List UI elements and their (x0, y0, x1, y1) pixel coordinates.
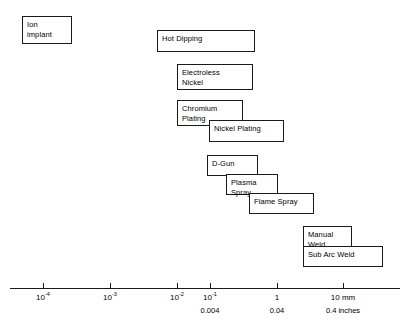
axis-inch-label: 0.4 inches (326, 306, 360, 315)
process-box: Hot Dipping (157, 30, 255, 52)
axis-inch-label: 0.004 (201, 306, 220, 315)
tick-exponent: -2 (179, 291, 184, 297)
process-box: Nickel Plating (209, 120, 284, 142)
tick-mantissa: 10 (103, 293, 112, 302)
axis-tick-label: 10-4 (36, 293, 50, 302)
process-box: Plasma Spray (226, 174, 278, 195)
axis-tick (210, 283, 211, 288)
axis-line (10, 288, 400, 289)
process-box: D-Gun (207, 155, 258, 176)
axis-inch-label: 0.04 (270, 306, 285, 315)
tick-mantissa: 1 (275, 293, 279, 302)
process-box: Ion implant (22, 16, 72, 44)
axis-tick-label: 10 mm (331, 293, 355, 302)
tick-mantissa: 10 (36, 293, 45, 302)
process-box: Sub Arc Weld (303, 246, 383, 267)
tick-exponent: -1 (212, 291, 217, 297)
tick-exponent: -4 (45, 291, 50, 297)
axis-tick-label: 10-3 (103, 293, 117, 302)
axis-tick (177, 283, 178, 288)
tick-mantissa: 10 (203, 293, 212, 302)
tick-exponent: -3 (112, 291, 117, 297)
coating-thickness-diagram: Ion implantHot DippingElectroless Nickel… (0, 0, 408, 327)
tick-mantissa: 10 (170, 293, 179, 302)
axis-tick (277, 283, 278, 288)
axis-tick (343, 283, 344, 288)
process-box: Electroless Nickel (177, 64, 253, 90)
axis-tick-label: 1 (275, 293, 279, 302)
axis-tick-label: 10-1 (203, 293, 217, 302)
axis-tick-label: 10-2 (170, 293, 184, 302)
process-box: Flame Spray (249, 193, 314, 214)
axis-tick (110, 283, 111, 288)
tick-mantissa: 10 mm (331, 293, 355, 302)
axis-tick (43, 283, 44, 288)
